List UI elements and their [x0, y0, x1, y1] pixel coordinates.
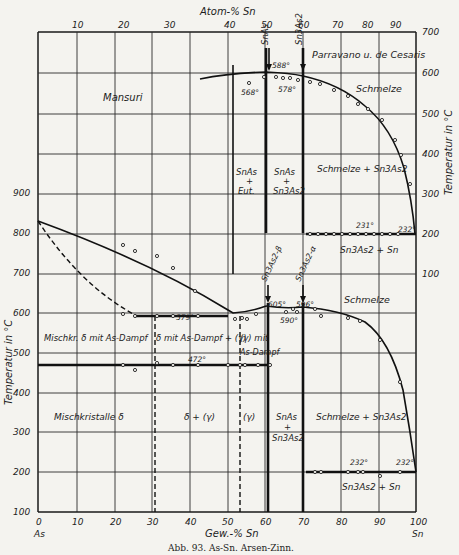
- compound-label-beta: Sn3As2-β: [260, 245, 284, 283]
- bottom-tick: 90: [374, 517, 386, 527]
- region-mischkr-dampf: Mischkr. δ mit As-Dampf: [44, 333, 150, 343]
- left-tick: 700: [13, 268, 30, 278]
- bottom-tick: 60: [260, 517, 272, 527]
- right-axis-title: Temperatur in °C: [443, 110, 454, 195]
- bottom-tick: 70: [298, 517, 310, 527]
- region-snas-sn3as2: +: [284, 422, 291, 432]
- left-axis-ticks: 900 800 700 600 500 400 300 200 100: [13, 188, 30, 517]
- temp-232: 232°: [398, 225, 416, 234]
- region-schmelze-sn3as2: Schmelze + Sn3As2: [317, 164, 408, 174]
- bottom-tick: 100: [410, 517, 427, 527]
- upper-labels: Mansuri Parravano u. de Cesaris SnAs Sn3…: [103, 13, 425, 255]
- left-tick: 600: [13, 308, 30, 318]
- left-tick: 500: [13, 348, 30, 358]
- temp-232a: 232°: [350, 458, 368, 467]
- figure-caption: Abb. 93. As-Sn. Arsen-Zinn.: [167, 543, 294, 553]
- right-tick: 200: [422, 229, 439, 239]
- bottom-tick: 50: [222, 517, 234, 527]
- top-axis-title: Atom-% Sn: [199, 6, 256, 17]
- bottom-axis-title: Gew.-% Sn: [205, 528, 259, 539]
- top-tick: 20: [118, 20, 130, 30]
- region-snas-sn3as2: +: [283, 176, 290, 186]
- compound-label-sn3as2: Sn3As2: [294, 13, 304, 45]
- region-schmelze: Schmelze: [344, 294, 390, 305]
- phase-diagram: 10 20 30 40 50 60 70 80 90 Atom-% Sn 900…: [0, 0, 459, 555]
- temp-590: 590°: [280, 316, 298, 325]
- arrow-icon: [300, 64, 306, 71]
- lower-labels: Sn3As2-β Sn3As2-α 605° 596° 590° Schmelz…: [44, 244, 414, 492]
- region-delta-dampf: δ mit As-Dampf + (γ): [156, 333, 247, 343]
- top-tick: 10: [72, 20, 84, 30]
- left-axis-title: Temperatur in °C: [3, 320, 14, 405]
- region-snas-eut: Eut.: [238, 186, 255, 196]
- bottom-tick: 0: [36, 517, 42, 527]
- region-schmelze-sn3as2: Schmelze + Sn3As2: [316, 412, 407, 422]
- top-tick: 90: [390, 20, 402, 30]
- bottom-axis-ticks: 0 10 20 30 40 50 60 70 80 90 100: [36, 517, 427, 527]
- left-tick: 100: [13, 507, 30, 517]
- compound-label-snas: SnAs: [260, 23, 270, 45]
- top-tick: 80: [362, 20, 374, 30]
- region-mischkristalle: Mischkristalle δ: [54, 412, 124, 422]
- bottom-tick: 30: [147, 517, 159, 527]
- bottom-tick: 40: [185, 517, 197, 527]
- region-gamma-mit: (γ) mit: [240, 333, 269, 343]
- source-label-mansuri: Mansuri: [103, 92, 143, 103]
- left-tick: 400: [13, 388, 30, 398]
- left-tick: 200: [13, 467, 30, 477]
- lower-chart: [38, 221, 416, 512]
- temp-568: 568°: [241, 88, 259, 97]
- top-tick: 30: [164, 20, 176, 30]
- temp-472: 472°: [188, 355, 206, 364]
- temp-605: 605°: [268, 300, 286, 309]
- right-tick: 300: [422, 189, 439, 199]
- compound-label-alpha: Sn3As2-α: [294, 244, 319, 283]
- upper-data-points: [247, 75, 411, 235]
- right-axis-ticks: 700 600 500 400 300 200 100: [422, 27, 439, 279]
- left-element-label: As: [33, 529, 45, 539]
- top-axis-ticks: 10 20 30 40 50 60 70 80 90: [72, 20, 402, 30]
- right-element-label: Sn: [412, 529, 424, 539]
- top-tick: 40: [224, 20, 236, 30]
- region-delta-gamma: δ + (γ): [184, 412, 215, 422]
- region-snas-eut: +: [246, 176, 253, 186]
- region-snas-sn3as2: Sn3As2: [273, 186, 305, 196]
- top-tick: 70: [332, 20, 344, 30]
- left-tick: 900: [13, 188, 30, 198]
- left-tick: 800: [13, 228, 30, 238]
- region-schmelze: Schmelze: [356, 83, 402, 94]
- upper-chart: [38, 32, 416, 512]
- right-tick: 600: [422, 68, 439, 78]
- right-tick: 700: [422, 27, 439, 37]
- region-snas-sn3as2: Sn3As2: [272, 433, 304, 443]
- bottom-tick: 80: [336, 517, 348, 527]
- temp-579: 579°: [176, 313, 194, 322]
- right-tick: 100: [422, 269, 439, 279]
- bottom-tick: 20: [110, 517, 122, 527]
- temp-596: 596°: [296, 300, 314, 309]
- region-snas-sn3as2: SnAs: [276, 412, 298, 422]
- region-as-dampf: As-Dampf: [239, 348, 280, 357]
- right-tick: 400: [422, 149, 439, 159]
- region-gamma: (γ): [243, 412, 255, 422]
- temp-232b: 232°: [396, 458, 414, 467]
- region-sn3as2-sn: Sn3As2 + Sn: [342, 482, 401, 492]
- right-tick: 500: [422, 109, 439, 119]
- temp-578: 578°: [278, 85, 296, 94]
- left-tick: 300: [13, 427, 30, 437]
- source-label-parravano: Parravano u. de Cesaris: [312, 49, 425, 60]
- region-sn3as2-sn: Sn3As2 + Sn: [340, 245, 399, 255]
- temp-588: 588°: [272, 61, 290, 70]
- temp-231: 231°: [356, 221, 374, 230]
- bottom-tick: 10: [72, 517, 84, 527]
